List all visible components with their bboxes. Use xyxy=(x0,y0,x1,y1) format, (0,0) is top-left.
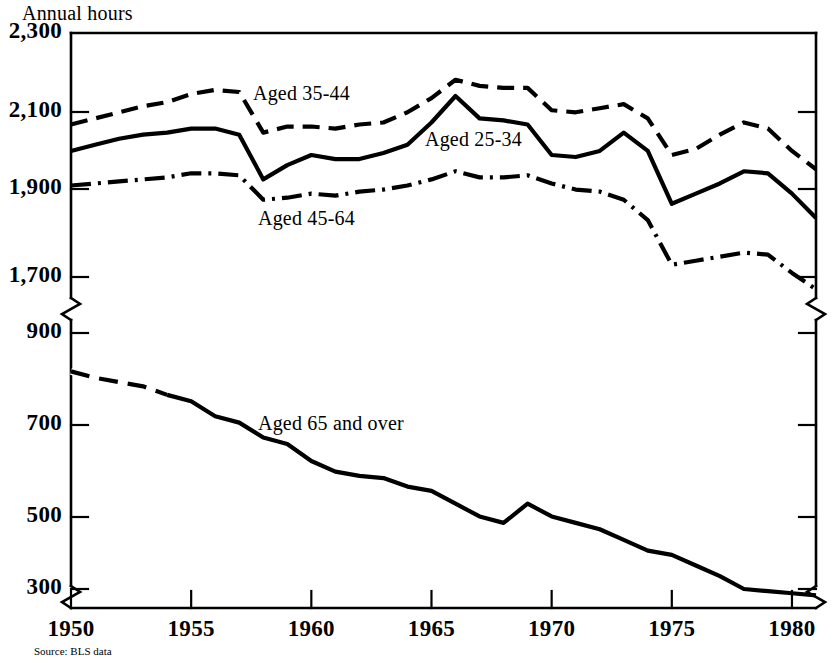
series-label-aged-65-and-over: Aged 65 and over xyxy=(258,412,404,435)
x-tick-label-1960: 1960 xyxy=(271,616,351,642)
x-tick-label-1975: 1975 xyxy=(632,616,712,642)
lower-panel-series xyxy=(71,371,816,595)
y-tick-label-1700: 1,700 xyxy=(0,262,62,288)
y-tick-label-1900: 1,900 xyxy=(0,174,62,200)
series-label-aged-35-44: Aged 35-44 xyxy=(253,82,350,105)
chart-axes xyxy=(62,33,825,608)
y-tick-label-300: 300 xyxy=(0,574,62,600)
upper-panel-series xyxy=(71,80,816,289)
y-tick-label-500: 500 xyxy=(0,502,62,528)
right-axis-break xyxy=(807,298,825,320)
series-label-aged-25-34: Aged 25-34 xyxy=(425,128,522,151)
annual-hours-chart: Annual hours 2,3002,1001,9001,700 900700… xyxy=(0,0,834,663)
y-tick-label-2100: 2,100 xyxy=(0,97,62,123)
y-tick-label-700: 700 xyxy=(0,410,62,436)
source-note: Source: BLS data xyxy=(34,645,112,657)
series-label-aged-45-64: Aged 45-64 xyxy=(258,207,355,230)
y-tick-label-900: 900 xyxy=(0,318,62,344)
x-tick-label-1965: 1965 xyxy=(391,616,471,642)
x-tick-label-1950: 1950 xyxy=(31,616,111,642)
chart-canvas xyxy=(0,0,834,663)
series-line-aged-65-and-over xyxy=(71,371,816,595)
x-tick-label-1955: 1955 xyxy=(151,616,231,642)
y-tick-label-2300: 2,300 xyxy=(0,18,62,44)
series-line-aged-35-44 xyxy=(71,80,816,169)
x-tick-label-1980: 1980 xyxy=(752,616,832,642)
x-tick-label-1970: 1970 xyxy=(512,616,592,642)
series-line-aged-25-34 xyxy=(71,96,816,218)
left-axis-break xyxy=(62,298,80,320)
